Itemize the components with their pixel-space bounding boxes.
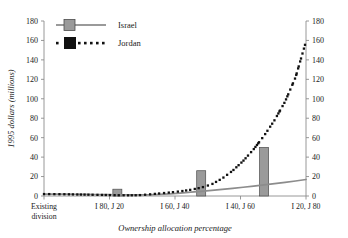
y-tick-label-left: 100	[26, 95, 38, 104]
series-dot-jordan	[273, 119, 275, 121]
series-dot-jordan	[198, 187, 200, 189]
series-dot-jordan	[283, 102, 285, 104]
series-dot-jordan	[139, 194, 141, 196]
series-dot-jordan	[68, 193, 70, 195]
series-dot-jordan	[232, 169, 234, 171]
legend-dot-jordan	[90, 42, 93, 45]
x-tick-label: I 80, J 20	[95, 202, 124, 211]
y-tick-label-left: 160	[26, 36, 38, 45]
series-dot-jordan	[144, 194, 146, 196]
series-dot-jordan	[230, 171, 232, 173]
series-dot-jordan	[296, 72, 298, 74]
legend-dot-jordan	[102, 42, 105, 45]
series-dot-jordan	[304, 44, 306, 46]
series-dot-jordan	[53, 193, 55, 195]
series-dot-jordan	[122, 194, 124, 196]
series-dot-jordan	[113, 194, 115, 196]
series-dot-jordan	[127, 194, 129, 196]
y-tick-label-right: 180	[312, 17, 324, 26]
legend-label-jordan: Jordan	[118, 38, 141, 48]
series-dot-jordan	[298, 65, 300, 67]
series-dot-jordan	[261, 137, 263, 139]
series-dot-jordan	[303, 47, 305, 49]
series-dot-jordan	[277, 112, 279, 114]
x-tick-label: division	[31, 212, 56, 221]
y-tick-label-right: 100	[312, 95, 324, 104]
series-dot-jordan	[76, 193, 78, 195]
y-tick-label-left: 120	[26, 75, 38, 84]
legend-dot-jordan	[96, 42, 99, 45]
series-dot-jordan	[279, 109, 281, 111]
series-dot-jordan	[207, 184, 209, 186]
series-dot-jordan	[168, 191, 170, 193]
y-tick-label-left: 180	[26, 17, 38, 26]
y-tick-label-right: 120	[312, 75, 324, 84]
series-dot-jordan	[189, 189, 191, 191]
series-dot-jordan	[172, 191, 174, 193]
chart-plot: 0204060801001201401601800204060801001201…	[0, 0, 348, 238]
y-tick-label-left: 0	[34, 192, 38, 201]
series-dot-jordan	[194, 188, 196, 190]
series-dot-jordan	[264, 133, 266, 135]
series-dot-jordan	[269, 126, 271, 128]
series-dot-jordan	[149, 193, 151, 195]
y-tick-label-left: 40	[30, 153, 38, 162]
legend-marker-jordan	[64, 37, 76, 49]
series-dot-jordan	[219, 179, 221, 181]
series-dot-jordan	[254, 146, 256, 148]
series-dot-jordan	[286, 95, 288, 97]
series-dot-jordan	[109, 194, 111, 196]
series-dot-jordan	[289, 88, 291, 90]
x-tick-label: I 20, J 80	[291, 202, 320, 211]
series-dot-jordan	[292, 82, 294, 84]
chart-container: 0204060801001201401601800204060801001201…	[0, 0, 348, 238]
y-tick-label-right: 20	[312, 172, 320, 181]
y-tick-label-right: 40	[312, 153, 320, 162]
series-dot-jordan	[91, 194, 93, 196]
legend-dot-jordan	[78, 42, 81, 45]
legend-label-israel: Israel	[118, 20, 138, 30]
x-tick-label: I 60, J 40	[160, 202, 189, 211]
series-dot-jordan	[185, 189, 187, 191]
series-dot-jordan	[271, 123, 273, 125]
series-dot-jordan	[63, 193, 65, 195]
series-dot-jordan	[244, 157, 246, 159]
series-dot-jordan	[253, 148, 255, 150]
series-dot-jordan	[258, 141, 260, 143]
series-dot-jordan	[285, 98, 287, 100]
series-dot-jordan	[266, 130, 268, 132]
legend-dot-jordan	[56, 42, 59, 45]
series-dot-jordan	[105, 194, 107, 196]
series-dot-jordan	[80, 193, 82, 195]
y-tick-label-right: 160	[312, 36, 324, 45]
series-dot-jordan	[177, 190, 179, 192]
series-dot-jordan	[235, 166, 237, 168]
series-dot-jordan	[158, 192, 160, 194]
series-dot-jordan	[101, 194, 103, 196]
bar-israel	[260, 147, 269, 196]
series-dot-jordan	[297, 67, 299, 69]
series-dot-jordan	[237, 164, 239, 166]
series-dot-jordan	[96, 194, 98, 196]
series-dot-jordan	[43, 193, 45, 195]
series-dot-jordan	[131, 194, 133, 196]
x-tick-label: Existing	[31, 202, 57, 211]
series-dot-jordan	[276, 115, 278, 117]
series-dot-jordan	[250, 151, 252, 153]
series-dot-jordan	[181, 190, 183, 192]
series-dot-jordan	[222, 176, 224, 178]
y-tick-label-right: 60	[312, 134, 320, 143]
series-dot-jordan	[281, 105, 283, 107]
series-dot-jordan	[58, 193, 60, 195]
series-dot-jordan	[211, 183, 213, 185]
series-dot-jordan	[300, 57, 302, 59]
series-dot-jordan	[135, 194, 137, 196]
legend-marker-israel	[64, 20, 75, 31]
y-tick-label-left: 60	[30, 134, 38, 143]
series-dot-jordan	[242, 159, 244, 161]
x-axis-title: Ownership allocation percentage	[118, 223, 232, 233]
y-tick-label-right: 80	[312, 114, 320, 123]
series-dot-jordan	[87, 194, 89, 196]
series-dot-jordan	[301, 52, 303, 54]
series-dot-jordan	[48, 193, 50, 195]
